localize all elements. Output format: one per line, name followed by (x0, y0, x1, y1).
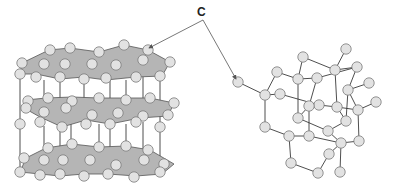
carbon-atom (119, 40, 129, 50)
carbon-atom (94, 93, 104, 103)
carbon-atom (143, 145, 153, 155)
graphite-layer-2 (15, 93, 179, 132)
carbon-atom (332, 102, 342, 112)
carbon-atom (330, 65, 340, 75)
carbon-atom (19, 153, 29, 163)
carbon-atom (39, 107, 49, 117)
carbon-atom (113, 108, 123, 118)
carbon-atom (35, 117, 45, 127)
carbon-atom (298, 52, 308, 62)
carbon-atom (43, 93, 53, 103)
carbon-atom (371, 97, 381, 107)
carbon-atom (57, 122, 67, 132)
carbon-atom (67, 139, 77, 149)
carbon-atom (55, 72, 65, 82)
carbon-atom (314, 100, 324, 110)
carbon-atom (139, 155, 149, 165)
graphite-structure (15, 40, 179, 182)
carbon-atom (103, 169, 113, 179)
carbon-atom (79, 171, 89, 181)
carbon-atom (87, 110, 97, 120)
carbon-atom (111, 60, 121, 70)
carbon-atom (293, 113, 303, 123)
carbon-atom (15, 167, 25, 177)
carbon-atom (233, 77, 243, 87)
carbon-atom (15, 69, 25, 79)
carbon-atom (121, 95, 131, 105)
carbon-atom (111, 160, 121, 170)
arrow-to-diamond (203, 20, 236, 79)
carbon-atom (165, 57, 175, 67)
carbon-atom (17, 58, 27, 68)
carbon-atom (45, 45, 55, 55)
carbon-atom (94, 142, 104, 152)
arrow-to-graphite (149, 20, 203, 48)
carbon-atom (352, 62, 362, 72)
carbon-atom (343, 85, 353, 95)
carbon-atom (155, 71, 165, 81)
carbon-atom (39, 59, 49, 69)
carbon-atom (304, 101, 314, 111)
carbon-atom (85, 155, 95, 165)
carbon-atom (341, 44, 351, 54)
carbon-atom (286, 158, 296, 168)
carbon-atom (39, 155, 49, 165)
carbon-atom (87, 59, 97, 69)
carbon-atom (101, 73, 111, 83)
carbon-atom (353, 105, 363, 115)
carbon-atom (275, 89, 285, 99)
carbon-atom (15, 119, 25, 129)
diamond-structure (233, 44, 381, 178)
carbon-atom (145, 93, 155, 103)
carbon-atom (324, 149, 334, 159)
carbon-atom (60, 59, 70, 69)
carbon-atom (129, 172, 139, 182)
carbon-atom (94, 47, 104, 57)
carbon-atom (61, 103, 71, 113)
carbon-atom (272, 67, 282, 77)
carbon-atom (260, 90, 270, 100)
carbon-atom (335, 167, 345, 177)
carbon-atom (65, 43, 75, 53)
carbon-atom (105, 119, 115, 129)
carbon-atom (312, 73, 322, 83)
carbon-atom (313, 168, 323, 178)
carbon-atom (354, 136, 364, 146)
carbon-atom (79, 74, 89, 84)
carbon-atom (81, 119, 91, 129)
carbon-atom (21, 103, 31, 113)
carbon-atom (293, 74, 303, 84)
carbon-atom (336, 138, 346, 148)
carbon-atom (121, 141, 131, 151)
carbon-atom (163, 110, 173, 120)
carbon-atom (364, 78, 374, 88)
carbon-atom (155, 167, 165, 177)
carbon-atom (58, 155, 68, 165)
carbon-atom (323, 126, 333, 136)
carbon-atom (35, 170, 45, 180)
carbon-atom (304, 131, 314, 141)
carbon-atom (138, 55, 148, 65)
carbon-atom (31, 72, 41, 82)
graphite-layer-3 (15, 139, 174, 182)
carbon-atom (131, 72, 141, 82)
carbon-allotropes-diagram (0, 0, 395, 193)
carbon-label: C (197, 5, 206, 19)
carbon-atom (55, 169, 65, 179)
carbon-atom (284, 131, 294, 141)
carbon-atom (43, 143, 53, 153)
carbon-atom (260, 122, 270, 132)
carbon-atom (169, 98, 179, 108)
carbon-atom (131, 117, 141, 127)
carbon-atom (341, 116, 351, 126)
carbon-atom (155, 122, 165, 132)
